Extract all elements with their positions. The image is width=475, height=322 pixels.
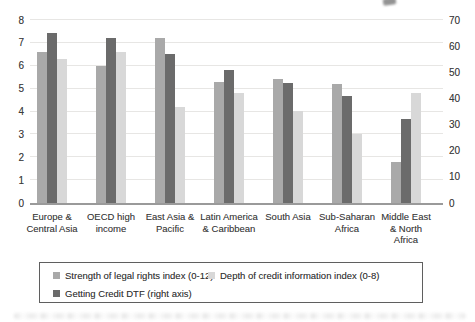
bar	[332, 84, 342, 203]
legend-swatch	[53, 272, 60, 279]
right-axis-tick: 0	[449, 197, 473, 210]
bar	[155, 38, 165, 203]
plot-area	[30, 20, 443, 205]
scan-artifact-bottom	[14, 313, 466, 319]
legend-label: Depth of credit information index (0-8)	[220, 270, 379, 281]
category-label: East Asia &Pacific	[137, 211, 203, 234]
scan-artifact-top	[383, 0, 397, 6]
right-axis-tick: 70	[449, 14, 473, 27]
bar	[175, 107, 185, 203]
bar	[116, 52, 126, 203]
legend: Strength of legal rights index (0-12)Dep…	[39, 262, 423, 303]
right-axis-tick: 40	[449, 92, 473, 105]
bar-group	[391, 20, 421, 203]
bar	[401, 119, 411, 203]
legend-label: Getting Credit DTF (right axis)	[65, 288, 192, 299]
left-axis-tick: 5	[2, 82, 24, 95]
bar	[47, 33, 57, 203]
category-label: Sub-SaharanAfrica	[314, 211, 380, 234]
right-axis-tick: 20	[449, 144, 473, 157]
getting-credit-bar-chart: 012345678 010203040506070 Europe &Centra…	[0, 0, 475, 322]
bar-group	[332, 20, 362, 203]
bar	[391, 162, 401, 203]
bar	[106, 38, 116, 203]
bar-group	[155, 20, 185, 203]
category-label: Middle East& NorthAfrica	[373, 211, 439, 246]
category-label: South Asia	[255, 211, 321, 223]
bar	[234, 93, 244, 203]
category-label: Europe &Central Asia	[19, 211, 85, 234]
bar-group	[273, 20, 303, 203]
left-axis-tick: 3	[2, 128, 24, 141]
bar	[57, 59, 67, 203]
left-axis-tick: 8	[2, 14, 24, 27]
bar	[214, 82, 224, 203]
legend-label: Strength of legal rights index (0-12)	[65, 270, 213, 281]
bar	[411, 93, 421, 203]
right-axis-tick: 50	[449, 66, 473, 79]
bar-group	[214, 20, 244, 203]
left-axis-tick: 0	[2, 197, 24, 210]
bar-group	[96, 20, 126, 203]
right-axis-tick: 10	[449, 170, 473, 183]
bar	[273, 79, 283, 203]
legend-swatch	[53, 290, 60, 297]
bar	[37, 52, 47, 203]
legend-item: Strength of legal rights index (0-12)	[53, 270, 213, 281]
bar	[283, 83, 293, 203]
bar-group	[37, 20, 67, 203]
legend-item: Depth of credit information index (0-8)	[208, 270, 379, 281]
left-axis-tick: 1	[2, 174, 24, 187]
bar	[342, 96, 352, 203]
left-axis-tick: 7	[2, 36, 24, 49]
bar	[96, 66, 106, 203]
right-axis-tick: 60	[449, 40, 473, 53]
left-axis-tick: 2	[2, 151, 24, 164]
left-axis-tick: 6	[2, 59, 24, 72]
legend-item: Getting Credit DTF (right axis)	[53, 288, 192, 299]
category-label: Latin America& Caribbean	[196, 211, 262, 234]
category-label: OECD highincome	[78, 211, 144, 234]
bar	[352, 134, 362, 203]
bar	[224, 70, 234, 203]
left-axis-tick: 4	[2, 105, 24, 118]
right-axis-tick: 30	[449, 118, 473, 131]
bar	[293, 111, 303, 203]
bar	[165, 54, 175, 203]
legend-swatch	[208, 272, 215, 279]
